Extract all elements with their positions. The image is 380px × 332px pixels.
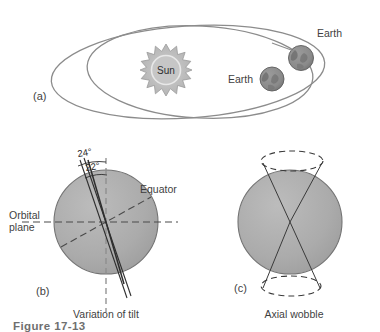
panel-c-group: (c) Axial wobble (234, 151, 342, 320)
figure-number: Figure 17-13 (13, 320, 86, 332)
panel-b-group: 24° 22° Equator Orbital plane (b) Variat… (9, 146, 178, 320)
panel-label-b: (b) (36, 285, 49, 297)
orbital-plane-label-line2: plane (9, 221, 35, 233)
earth-sphere-outer (289, 46, 314, 71)
orbital-plane-label-line1: Orbital (9, 209, 40, 221)
earth-label-outer: Earth (317, 27, 342, 39)
angle-label-24: 24° (77, 146, 93, 159)
precession-circle-top (261, 151, 323, 171)
panel-b-caption: Variation of tilt (73, 308, 139, 320)
panel-label-c: (c) (234, 282, 247, 294)
sun-label: Sun (157, 65, 175, 76)
sun-graphic: Sun (140, 44, 192, 96)
earth-label-inner: Earth (228, 73, 253, 85)
panel-a-group: Sun Earth Earth (a) (33, 17, 342, 128)
precession-circle-bottom (261, 276, 321, 296)
angle-label-22: 22° (85, 160, 101, 173)
earth-sphere-inner (260, 67, 284, 91)
equator-label: Equator (140, 183, 177, 195)
panel-c-caption: Axial wobble (265, 308, 324, 320)
panel-label-a: (a) (33, 90, 46, 102)
